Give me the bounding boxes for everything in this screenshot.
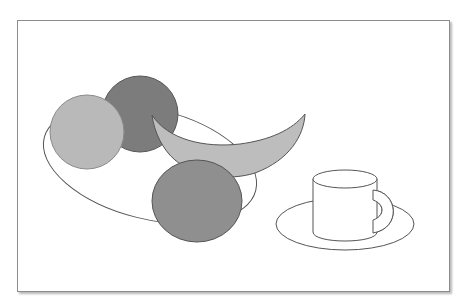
front-orange — [152, 160, 242, 242]
cup-rim — [313, 170, 377, 188]
still-life-drawing — [0, 0, 471, 306]
illustration-stage: Still life: fruit bowl with cup and sauc… — [0, 0, 471, 306]
light-orange — [50, 95, 124, 169]
